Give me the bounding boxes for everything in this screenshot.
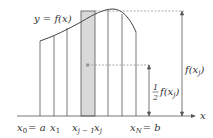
height-arrow-half xyxy=(148,65,151,116)
midpoint-marker xyxy=(86,64,89,67)
height-arrow-full xyxy=(181,11,184,116)
svg-text:1: 1 xyxy=(153,83,158,92)
tick-label-x0: x0= a xyxy=(17,122,46,135)
axis-label-x: x xyxy=(200,110,206,121)
full-height-label: f(xj) xyxy=(184,64,204,77)
tick-label-xj: xj xyxy=(94,122,103,135)
tick-label-xj-minus-1: xj − 1 xyxy=(72,122,95,135)
riemann-sum-diagram: y = f(x) x x0= a x1 xj − 1 xj xN= b f(xj… xyxy=(0,0,213,138)
curve-label: y = f(x) xyxy=(33,13,72,24)
x-axis xyxy=(17,114,196,118)
svg-text:2: 2 xyxy=(152,93,158,102)
tick-label-x1: x1 xyxy=(50,122,60,135)
svg-text:f(xj): f(xj) xyxy=(159,86,179,99)
half-height-label: 1 2 f(xj) xyxy=(152,83,179,102)
tick-label-xN: xN= b xyxy=(130,122,161,135)
